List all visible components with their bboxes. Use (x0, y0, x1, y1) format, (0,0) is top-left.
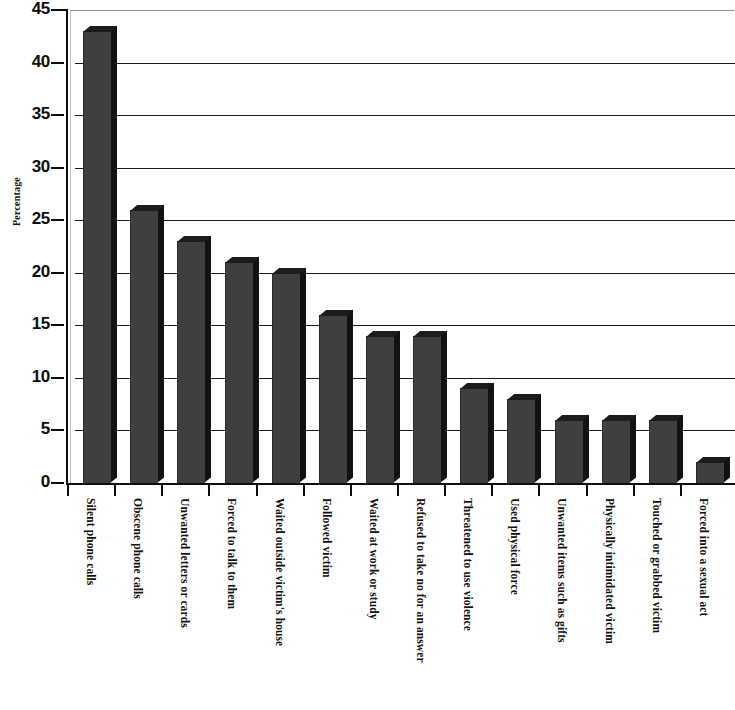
bar-side (676, 414, 683, 483)
bar-side (487, 383, 494, 483)
bar (319, 315, 346, 483)
x-axis-tick-label: Obscene phone calls (132, 498, 144, 599)
bar-side (346, 309, 353, 483)
x-axis-tick-mark (161, 485, 163, 496)
bar-side (582, 414, 589, 483)
bar-side (204, 236, 211, 483)
x-axis-tick-mark (114, 485, 116, 496)
x-axis-tick-label: Used physical force (509, 498, 521, 595)
x-axis-tick-label: Physically intimidated victim (604, 498, 616, 644)
y-axis-tick-label: 0 (41, 472, 50, 492)
y-axis-tick-label: 5 (41, 419, 50, 439)
y-axis-tick-label: 15 (32, 314, 50, 334)
y-axis-tick-label: 45 (32, 0, 50, 19)
x-axis-tick-mark (397, 485, 399, 496)
y-axis-tick-mark (51, 62, 64, 64)
x-axis-tick-label: Forced into a sexual act (698, 498, 710, 616)
y-axis-tick-mark (51, 167, 64, 169)
x-axis-tick-mark (680, 485, 682, 496)
bar-side (252, 257, 259, 483)
x-axis-tick-label: Followed victim (321, 498, 333, 578)
y-axis-tick-label: 40 (32, 52, 50, 72)
y-axis-tick-mark (51, 272, 64, 274)
x-axis-tick-mark (444, 485, 446, 496)
bar-side (534, 393, 541, 483)
bar-face (366, 336, 394, 483)
x-axis-tick-label: Forced to talk to them (226, 498, 238, 609)
bar-face (555, 420, 583, 483)
y-axis-tick-label: 10 (32, 367, 50, 387)
y-axis-tick-mark (51, 219, 64, 221)
bar (507, 399, 534, 483)
bar (413, 336, 440, 483)
x-axis-tick-mark (538, 485, 540, 496)
y-axis-tick-mark (51, 324, 64, 326)
bar (83, 31, 110, 483)
bar (460, 388, 487, 483)
x-axis-labels: Silent phone callsObscene phone callsUnw… (0, 498, 727, 710)
x-axis-tick-label: Unwanted items such as gifts (556, 498, 568, 643)
bar (130, 210, 157, 483)
y-axis-tick-mark (51, 377, 64, 379)
y-axis: 454035302520151050 (0, 0, 70, 500)
bar-face (177, 241, 205, 483)
bar-face (413, 336, 441, 483)
bar-face (225, 262, 253, 483)
bar (696, 462, 723, 483)
x-axis-tick-mark (208, 485, 210, 496)
y-axis-tick-label: 20 (32, 262, 50, 282)
bar-face (602, 420, 630, 483)
bar-face (696, 462, 724, 483)
x-axis-tick-label: Refused to take no for an answer (415, 498, 427, 663)
bar-face (507, 399, 535, 483)
bar (272, 273, 299, 483)
bar-series (75, 0, 735, 483)
bar-side (299, 267, 306, 483)
x-axis-tick-label: Touched or grabbed victim (651, 498, 663, 633)
y-axis-tick-mark (51, 482, 64, 484)
y-axis-tick-label: 25 (32, 209, 50, 229)
x-axis-tick-label: Threatened to use violence (462, 498, 474, 631)
x-axis-tick-label: Waited at work or study (368, 498, 380, 620)
y-axis-tick-mark (51, 9, 64, 11)
bar-side (157, 204, 164, 483)
bar-face (130, 210, 158, 483)
x-axis-tick-label: Silent phone calls (85, 498, 97, 585)
bar (602, 420, 629, 483)
bar-face (649, 420, 677, 483)
bar-face (319, 315, 347, 483)
bar-side (440, 330, 447, 483)
x-axis-tick-mark (633, 485, 635, 496)
x-axis-tick-label: Waited outside victim's house (274, 498, 286, 646)
x-axis-tick-mark (303, 485, 305, 496)
y-axis-tick-label: 35 (32, 104, 50, 124)
y-axis-tick-mark (51, 114, 64, 116)
x-axis-tick-mark (67, 485, 69, 496)
y-axis-tick-label: 30 (32, 157, 50, 177)
x-axis-tick-mark (256, 485, 258, 496)
bar (366, 336, 393, 483)
bar-side (393, 330, 400, 483)
x-axis-tick-mark (350, 485, 352, 496)
bar-face (83, 31, 111, 483)
bar (555, 420, 582, 483)
bar (225, 262, 252, 483)
bar (177, 241, 204, 483)
bar-face (460, 388, 488, 483)
x-axis-tick-mark (586, 485, 588, 496)
bar-face (272, 273, 300, 483)
x-axis-tick-label: Unwanted letters or cards (179, 498, 191, 628)
y-axis-tick-mark (51, 429, 64, 431)
bar-side (629, 414, 636, 483)
bar-side (110, 26, 117, 483)
x-axis-tick-mark (491, 485, 493, 496)
bar (649, 420, 676, 483)
